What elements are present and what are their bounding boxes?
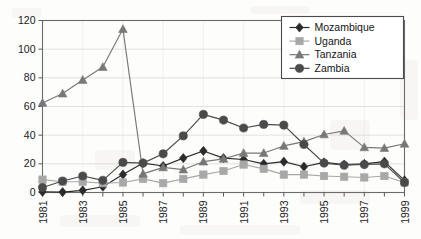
- y-tick-label: 60: [24, 100, 36, 112]
- marker-circle: [260, 120, 268, 128]
- y-tick-label: 120: [18, 14, 36, 26]
- marker-circle: [400, 178, 408, 186]
- marker-circle: [280, 121, 288, 129]
- marker-square: [180, 175, 187, 182]
- marker-triangle: [58, 89, 67, 97]
- marker-square: [340, 173, 347, 180]
- marker-diamond: [59, 187, 67, 196]
- marker-square: [361, 174, 368, 181]
- marker-diamond: [300, 162, 308, 171]
- marker-diamond: [79, 186, 87, 195]
- marker-circle: [295, 64, 303, 72]
- texture-blob: [95, 150, 135, 170]
- marker-circle: [38, 183, 46, 191]
- legend-label: Zambia: [315, 62, 350, 74]
- marker-square: [320, 172, 327, 179]
- marker-diamond: [119, 170, 127, 179]
- legend-label: Uganda: [315, 35, 352, 47]
- marker-circle: [59, 177, 67, 185]
- marker-circle: [179, 132, 187, 140]
- marker-circle: [219, 116, 227, 124]
- legend: MozambiqueUgandaTanzaniaZambia: [282, 17, 404, 79]
- marker-triangle: [99, 63, 108, 71]
- x-tick-label: 1983: [77, 200, 89, 224]
- y-tick-label: 80: [24, 71, 36, 83]
- marker-square: [300, 171, 307, 178]
- marker-square: [296, 37, 303, 44]
- marker-square: [381, 172, 388, 179]
- x-tick-label: 1993: [278, 200, 290, 224]
- marker-square: [220, 167, 227, 174]
- y-tick-label: 0: [30, 186, 36, 198]
- marker-circle: [300, 140, 308, 148]
- chart-canvas: 0204060801001201981198319851987198919911…: [0, 0, 421, 239]
- marker-circle: [320, 159, 328, 167]
- marker-circle: [360, 160, 368, 168]
- marker-circle: [119, 158, 127, 166]
- y-tick-label: 20: [24, 157, 36, 169]
- marker-circle: [380, 160, 388, 168]
- legend-label: Mozambique: [315, 21, 375, 33]
- marker-diamond: [179, 154, 187, 163]
- x-tick-label: 1991: [238, 200, 250, 224]
- marker-circle: [199, 110, 207, 118]
- marker-triangle: [119, 25, 128, 33]
- x-tick-label: 1997: [358, 200, 370, 224]
- x-tick-label: 1999: [399, 200, 411, 224]
- marker-square: [260, 165, 267, 172]
- marker-circle: [240, 124, 248, 132]
- marker-diamond: [280, 157, 288, 166]
- marker-triangle: [38, 99, 47, 107]
- texture-blob: [250, 6, 310, 14]
- legend-label: Tanzania: [315, 48, 357, 60]
- marker-triangle: [400, 139, 409, 147]
- marker-diamond: [200, 146, 208, 155]
- texture-blob: [180, 225, 300, 235]
- marker-square: [240, 161, 247, 168]
- marker-square: [200, 171, 207, 178]
- x-tick-label: 1985: [117, 200, 129, 224]
- marker-square: [280, 171, 287, 178]
- marker-square: [119, 179, 126, 186]
- x-tick-label: 1989: [197, 200, 209, 224]
- y-tick-label: 40: [24, 129, 36, 141]
- x-tick-label: 1987: [157, 200, 169, 224]
- marker-circle: [99, 176, 107, 184]
- marker-triangle: [78, 76, 87, 84]
- x-tick-label: 1995: [318, 200, 330, 224]
- marker-circle: [159, 150, 167, 158]
- marker-square: [39, 176, 46, 183]
- y-tick-label: 100: [18, 43, 36, 55]
- marker-square: [159, 179, 166, 186]
- x-tick-label: 1981: [37, 200, 49, 224]
- line-chart: 0204060801001201981198319851987198919911…: [0, 0, 421, 239]
- marker-circle: [139, 159, 147, 167]
- marker-circle: [79, 172, 87, 180]
- marker-circle: [340, 161, 348, 169]
